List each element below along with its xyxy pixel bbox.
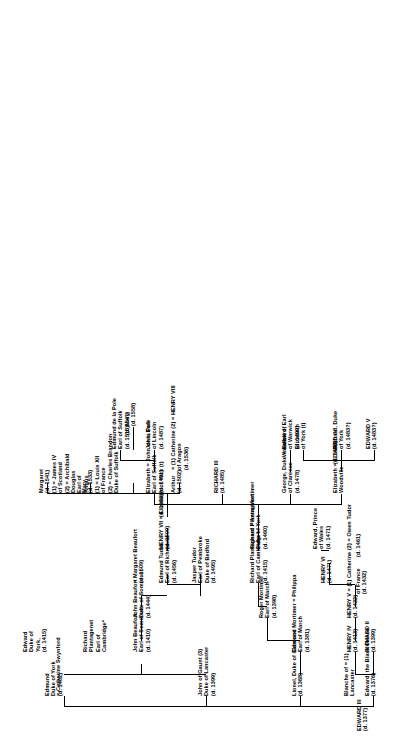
connector-e3-to-lionel [300, 696, 301, 707]
node-line: Duke of Lancaster [203, 647, 209, 696]
node-edward-prince-of-wales: Edward, Prince of Wales (d. 1471) [312, 508, 331, 549]
node-line: (d. 1444) [145, 570, 151, 618]
node-line: (d. 1471) [325, 508, 331, 549]
node-line: Angus [83, 453, 89, 493]
node-edmund-york: Edmund Duke of York (d. 1402) [44, 661, 63, 696]
node-line: (d. 1487) [158, 421, 164, 449]
connector-swynford-johnbeaufort [141, 664, 142, 675]
node-line: (d. 1456) [171, 536, 177, 583]
node-line: (d. 1536) [183, 385, 189, 470]
node-line: (d. 1415) [41, 629, 47, 652]
node-jasper-tudor: Jasper Tudor Earl of Pembroke Duke of Be… [191, 536, 217, 583]
node-edward-earl-warwick: Edward, Earl of Warwick (d. 1499) [281, 415, 300, 450]
node-henry4: HENRY IV (d. 1413) [346, 625, 359, 652]
connector-e3-to-blackprince [373, 696, 374, 707]
node-line: of York (t) [300, 423, 306, 449]
node-mary-1558: Mary (d. 1558) [124, 403, 137, 426]
connector-owen-stub [200, 585, 201, 596]
connector-swynford-bus [64, 674, 206, 675]
node-arthur: Arthur (d. 1502) [170, 470, 183, 493]
node-line: (d. 1503) [158, 494, 164, 517]
genealogy-chart: EDWARD III (d. 1377) Edward, the Black P… [0, 0, 395, 753]
rotated-diagram-stage: EDWARD III (d. 1377) Edward, the Black P… [0, 0, 395, 753]
node-edward3: EDWARD III (d. 1377) [356, 699, 369, 731]
node-richard2: RICHARD II (d. 1399) [364, 621, 377, 652]
node-richard-duke-york-1483: Richard, Duke of York (d. 1483?) [332, 411, 351, 449]
node-line: (d. 1399) [370, 621, 376, 652]
node-catherine-aragon-henry8: = (1) Catherine (2) = HENRY VIII of Arag… [170, 385, 189, 470]
node-line: Duke of York [50, 661, 56, 696]
node-line: (d. 1471) [326, 556, 332, 583]
node-line: (d. 1485) [219, 460, 225, 493]
connector-e4-elizabethyork [303, 450, 304, 461]
node-line: (d. 1483?) [371, 418, 377, 449]
node-line: (d. 1509) [138, 529, 144, 583]
node-line: (d. 1413) [352, 625, 358, 652]
node-line: (d. 1499) [294, 415, 300, 450]
connector-edward3-bus [64, 706, 374, 707]
node-line: (d. 1381) [304, 575, 310, 652]
connector-e3-to-edmundyork [64, 696, 65, 707]
node-richard-cambridge: Richard Plantagenet Earl of Cambridge* [82, 620, 108, 652]
node-line: (d. 1558) [130, 403, 136, 426]
connector-york-children-bus [154, 504, 342, 505]
node-line: (d. 1502) [176, 470, 182, 493]
node-line: of Warwick [287, 415, 293, 450]
node-line: (d. 1461) [355, 534, 361, 557]
node-richard-duke-of-york: Richard Plantagenet Duke of York (d. 146… [249, 494, 268, 549]
node-line: (d. 1399) [210, 647, 216, 696]
node-line: (d. 1495) [210, 536, 216, 583]
node-edmund-mortimer: Edmund Mortimer = Philippa Earl of March… [291, 575, 310, 652]
node-john-earl-lincoln: John, Earl of Lincoln (d. 1487) [145, 421, 164, 449]
connector-henry8-mary [133, 427, 134, 450]
node-line: Lancaster [349, 653, 355, 696]
node-line: (d. 1422) [352, 504, 358, 618]
node-blanche-lancaster: Blanche of = (1) Lancaster [343, 653, 356, 696]
node-elizabeth-of-york-date: (d. 1503) [158, 494, 164, 517]
node-line: (d. 1402) [57, 661, 63, 696]
node-line: Cambridge* [101, 620, 107, 652]
node-owen-tudor-date: (d. 1461) [355, 534, 361, 557]
connector-owen-children [167, 584, 200, 585]
node-edward-duke-york: Edward Duke of York, (d. 1415) [22, 629, 48, 652]
node-line: (d. 1432) [361, 568, 367, 594]
node-line: (d. 1460) [262, 494, 268, 549]
connector-delapole-edmund [120, 450, 121, 461]
connector-h7-henry8 [133, 483, 134, 494]
node-catherine-france-detail: of France (d. 1432) [355, 568, 368, 594]
connector-h6-edwardwales [321, 550, 329, 551]
connector-e4-edward5 [374, 450, 375, 461]
connector-york-richard3 [222, 494, 223, 505]
node-line: Plantagenet [88, 620, 94, 652]
node-line: (d. 1398) [271, 576, 277, 618]
node-margaret-1541: Margaret (d. 1541) (1) = James IV of Sco… [38, 453, 89, 493]
node-line: Duke of [28, 629, 34, 652]
node-richard3: RICHARD III (d. 1485) [213, 460, 226, 493]
connector-york-edward4 [341, 494, 342, 505]
node-henry6: HENRY VI (d. 1471) [320, 556, 333, 583]
node-line: of Lincoln [151, 421, 157, 449]
connector-york-george [290, 494, 291, 505]
node-line: (d. 1377) [362, 699, 368, 731]
node-john-gaunt: John of Gaunt (3) Duke of Lancaster (d. … [197, 647, 216, 696]
node-edward5: EDWARD V (d. 1483?) [365, 418, 378, 449]
node-margaret-beaufort: = Margaret Beaufort (d. 1509) [132, 529, 145, 583]
connector-e3-to-gaunt [206, 696, 207, 707]
node-henry5-catherine-owen: HENRY V = (1) Catherine (2) = Owen Tudor… [346, 504, 359, 618]
node-line: Earl of Pembroke [197, 536, 203, 583]
node-line: (d. 1483?) [345, 411, 351, 449]
connector-york-elizabeth [154, 494, 155, 505]
connector-mortimer-roger [267, 618, 268, 641]
